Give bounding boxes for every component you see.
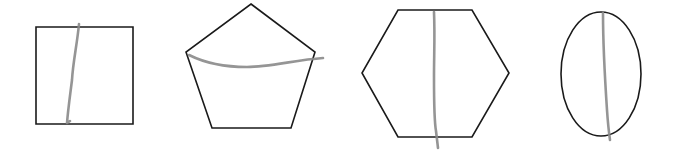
hexagon-shape <box>362 10 509 148</box>
square-outline <box>36 27 133 124</box>
pentagon-shape <box>186 4 323 128</box>
square-shape <box>36 24 133 124</box>
pentagon-cut-line <box>189 55 323 67</box>
shapes-svg <box>0 0 675 155</box>
ellipse-outline <box>561 12 641 136</box>
ellipse-cut-line <box>603 13 610 140</box>
ellipse-shape <box>561 12 641 140</box>
square-cut-line <box>67 24 79 123</box>
hexagon-cut-line <box>434 12 438 148</box>
shape-figure: square pentagon hexagon ellipse <box>0 0 675 155</box>
